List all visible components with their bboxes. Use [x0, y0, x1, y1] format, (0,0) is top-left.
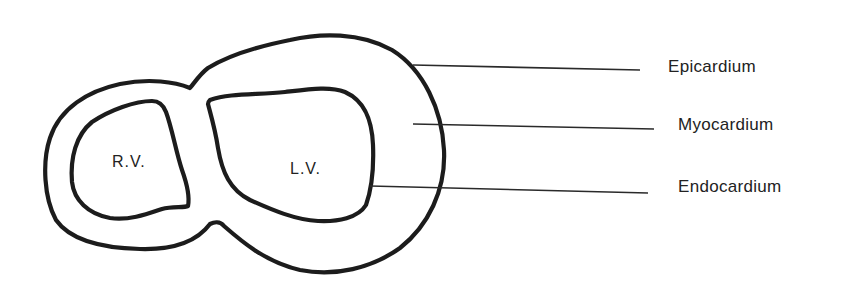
- lv-cavity-contour: [208, 89, 373, 222]
- heart-cross-section-diagram: R.V. L.V. Epicardium Myocardium Endocard…: [0, 0, 852, 290]
- epicardium-leader-line: [413, 65, 640, 70]
- endocardium-leader-line: [370, 186, 648, 193]
- heart-outline-drawing: [0, 0, 852, 290]
- myocardium-leader-line: [413, 124, 654, 129]
- lv-chamber-label: L.V.: [290, 161, 321, 177]
- endocardium-label: Endocardium: [678, 178, 781, 195]
- epicardium-label: Epicardium: [668, 58, 756, 75]
- rv-chamber-label: R.V.: [112, 154, 146, 170]
- epicardium-outer-contour: [45, 35, 444, 272]
- myocardium-label: Myocardium: [678, 116, 774, 133]
